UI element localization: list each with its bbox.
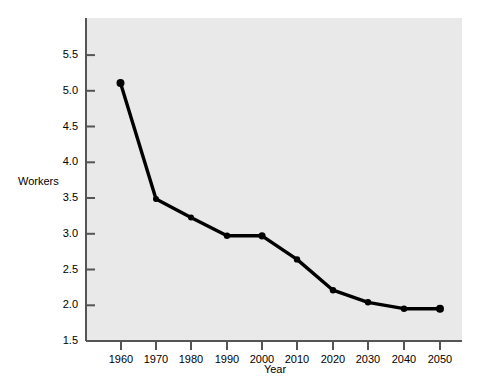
y-tick-label-3-0: 3.0 xyxy=(44,227,78,239)
x-tick-label-1960: 1960 xyxy=(101,353,141,365)
y-tick-label-2-0: 2.0 xyxy=(44,298,78,310)
data-point-2040 xyxy=(401,306,407,312)
data-point-2000 xyxy=(258,232,265,239)
data-markers xyxy=(117,79,445,313)
y-tick-label-5-0: 5.0 xyxy=(44,84,78,96)
data-point-1980 xyxy=(188,215,194,221)
y-tick-label-5-5: 5.5 xyxy=(44,48,78,60)
y-tick-label-3-5: 3.5 xyxy=(44,191,78,203)
y-axis-title: Workers xyxy=(18,175,59,187)
data-line-workers xyxy=(121,83,441,309)
data-point-1990 xyxy=(224,233,230,239)
data-point-2020 xyxy=(330,287,336,293)
x-tick-label-2020: 2020 xyxy=(313,353,353,365)
y-tick-label-2-5: 2.5 xyxy=(44,263,78,275)
x-tick-label-2050: 2050 xyxy=(420,353,460,365)
data-point-2010 xyxy=(294,256,300,262)
x-axis-ticks xyxy=(121,341,440,350)
x-tick-label-1970: 1970 xyxy=(136,353,176,365)
x-tick-label-2030: 2030 xyxy=(348,353,388,365)
y-tick-label-1-5: 1.5 xyxy=(44,334,78,346)
y-tick-label-4-5: 4.5 xyxy=(44,120,78,132)
y-tick-label-4-0: 4.0 xyxy=(44,155,78,167)
x-axis-title: Year xyxy=(255,363,295,375)
data-point-2050 xyxy=(436,305,444,313)
x-tick-label-1980: 1980 xyxy=(171,353,211,365)
y-axis-ticks xyxy=(86,55,95,341)
data-point-1960 xyxy=(117,79,125,87)
x-tick-label-2040: 2040 xyxy=(384,353,424,365)
x-tick-label-1990: 1990 xyxy=(207,353,247,365)
data-point-2030 xyxy=(365,299,371,305)
chart-figure: 5.5 5.0 4.5 4.0 3.5 3.0 2.5 2.0 1.5 1960… xyxy=(0,0,493,385)
data-point-1970 xyxy=(153,196,159,202)
